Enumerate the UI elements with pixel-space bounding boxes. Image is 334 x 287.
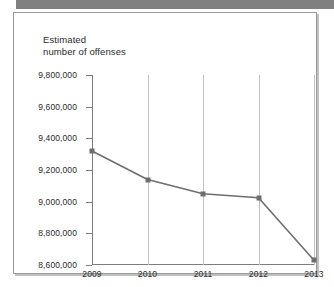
y-tick-label: 8,600,000 [38,260,77,270]
chart-panel: Estimated number of offenses 8,600,0008,… [13,12,317,274]
chart-title: Estimated number of offenses [43,34,126,58]
data-point-marker [145,177,150,182]
data-point-marker [90,149,95,154]
y-tick-label: 8,800,000 [38,228,77,238]
x-tick-label: 2011 [194,269,213,279]
x-tick-label: 2009 [82,269,101,279]
x-tick-label: 2010 [138,269,157,279]
plot-area: 8,600,0008,800,0009,000,0009,200,0009,40… [92,75,314,265]
x-tick-label: 2012 [249,269,268,279]
data-point-marker [256,195,261,200]
data-point-marker [312,258,317,263]
y-tick-label: 9,400,000 [38,133,77,143]
top-banner [16,0,334,9]
y-tick-label: 9,800,000 [38,70,77,80]
figure-root: Estimated number of offenses 8,600,0008,… [0,0,334,287]
data-point-marker [201,191,206,196]
y-tick-label: 9,600,000 [38,102,77,112]
y-tick-mark: 8,600,000 [86,265,92,266]
top-banner-shadow [16,9,334,11]
x-tick-label: 2013 [304,269,323,279]
series-line [92,75,314,265]
gridline [314,75,315,265]
y-tick-label: 9,000,000 [38,197,77,207]
y-tick-label: 9,200,000 [38,165,77,175]
